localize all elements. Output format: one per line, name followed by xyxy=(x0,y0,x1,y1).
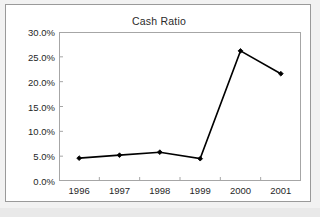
chart-canvas xyxy=(6,5,312,203)
data-point-marker xyxy=(198,156,203,161)
data-point-marker xyxy=(157,150,162,155)
x-axis-tick-labels: 199619971998199920002001 xyxy=(59,185,301,201)
x-axis-tick-label: 1997 xyxy=(109,185,130,196)
page-bottom-strip xyxy=(0,208,320,217)
chart-screenshot: Cash Ratio 0.0%5.0%10.0%15.0%20.0%25.0%3… xyxy=(0,0,320,217)
data-line xyxy=(79,51,281,159)
x-axis-tick-label: 1999 xyxy=(190,185,211,196)
data-point-marker xyxy=(117,153,122,158)
x-axis-tick-label: 1996 xyxy=(69,185,90,196)
data-point-marker xyxy=(77,156,82,161)
x-axis-ticks xyxy=(99,177,260,181)
x-axis-tick-label: 1998 xyxy=(149,185,170,196)
data-markers xyxy=(77,48,283,161)
x-axis-tick-label: 2000 xyxy=(230,185,251,196)
chart-outer-frame: Cash Ratio 0.0%5.0%10.0%15.0%20.0%25.0%3… xyxy=(5,4,311,202)
y-axis-ticks xyxy=(59,57,63,156)
x-axis-tick-label: 2001 xyxy=(270,185,291,196)
